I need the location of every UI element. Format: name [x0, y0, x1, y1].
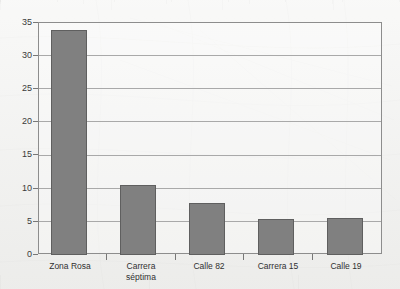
- gridline: [39, 121, 381, 122]
- bar-calle-82: [189, 203, 225, 255]
- y-tick-label: 25: [4, 84, 32, 93]
- x-tick-mark: [312, 254, 313, 260]
- x-tick-mark: [175, 254, 176, 260]
- chart-figure: 35 30 25 20 15 10 5 0 Zona Rosa Carrera …: [0, 0, 400, 289]
- y-tick-label: 20: [4, 117, 32, 126]
- bar-carrera-septima: [120, 185, 156, 255]
- gridline: [39, 188, 381, 189]
- x-tick-mark: [243, 254, 244, 260]
- plot-area: [38, 22, 382, 254]
- bar-calle-19: [327, 218, 363, 255]
- gridline: [39, 88, 381, 89]
- y-tick-label: 35: [4, 18, 32, 27]
- y-tick-label: 15: [4, 150, 32, 159]
- x-tick-mark: [106, 254, 107, 260]
- x-category-label-carrera-septima: Carrera séptima: [108, 261, 174, 283]
- bar-carrera-15: [258, 219, 294, 255]
- y-tick-label: 5: [4, 217, 32, 226]
- x-category-label-zona-rosa: Zona Rosa: [36, 261, 104, 272]
- x-category-label-calle-82: Calle 82: [177, 261, 241, 272]
- x-category-label-carrera-15: Carrera 15: [245, 261, 311, 272]
- bar-zona-rosa: [51, 30, 87, 255]
- y-tick-label: 10: [4, 184, 32, 193]
- y-tick-label: 30: [4, 51, 32, 60]
- x-category-label-calle-19: Calle 19: [314, 261, 378, 272]
- y-tick-mark: [33, 254, 38, 255]
- gridline: [39, 55, 381, 56]
- y-tick-label: 0: [4, 250, 32, 259]
- gridline: [39, 155, 381, 156]
